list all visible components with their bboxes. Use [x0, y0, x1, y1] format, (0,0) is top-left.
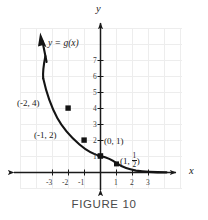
- plot-area: x y -3 -2 -1 1 2 3 1 2 3 4 5 6 7 y = g(x…: [0, 0, 208, 196]
- y-tick-2: 2: [93, 137, 97, 145]
- marker-neg1-2: [81, 137, 86, 142]
- y-tick-1: 1: [93, 153, 97, 161]
- x-tick-2: 2: [130, 179, 134, 187]
- x-tick-3: 3: [146, 179, 150, 187]
- y-tick-7: 7: [93, 57, 97, 65]
- marker-1-half: [114, 161, 119, 166]
- point-label-neg2-4: (-2, 4): [17, 99, 40, 108]
- point-label-neg1-2: (-1, 2): [34, 131, 57, 140]
- x-tick-neg1: -1: [78, 179, 84, 187]
- marker-0-1: [98, 153, 104, 159]
- y-tick-3: 3: [93, 121, 97, 129]
- figure-caption: FIGURE 10: [0, 198, 208, 210]
- curve-upper-join: [43, 56, 45, 78]
- marker-neg2-4: [65, 105, 70, 110]
- x-tick-1: 1: [114, 179, 118, 187]
- x-tick-neg2: -2: [62, 179, 68, 187]
- y-axis-label: y: [96, 4, 101, 15]
- curve-equation-label: y = g(x): [48, 39, 79, 49]
- point-label-1-half-prefix: (1,: [120, 156, 132, 166]
- y-tick-6: 6: [93, 73, 97, 81]
- x-tick-neg3: -3: [46, 179, 52, 187]
- point-label-0-1: (0, 1): [104, 137, 124, 146]
- x-axis-label: x: [189, 166, 194, 177]
- figure-container: x y -3 -2 -1 1 2 3 1 2 3 4 5 6 7 y = g(x…: [0, 0, 208, 220]
- y-tick-5: 5: [93, 89, 97, 97]
- point-label-1-half: (1, 12): [120, 152, 140, 168]
- point-label-1-half-suffix: ): [137, 156, 140, 166]
- y-tick-4: 4: [93, 105, 97, 113]
